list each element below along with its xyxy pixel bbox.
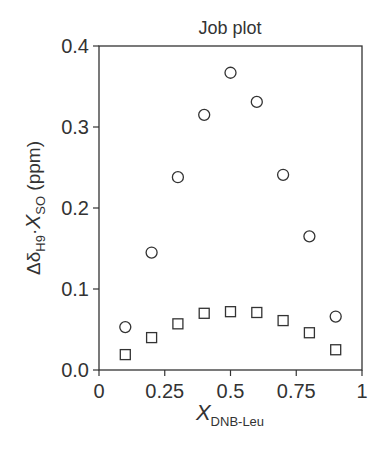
square-marker — [147, 333, 157, 343]
circle-marker — [251, 96, 262, 107]
square-marker — [252, 307, 262, 317]
square-marker — [173, 319, 183, 329]
square-marker — [331, 345, 341, 355]
circle-marker — [278, 169, 289, 180]
x-tick-label: 1 — [356, 380, 367, 402]
x-axis-label: XDNB-Leu — [195, 400, 264, 429]
chart-title: Job plot — [198, 18, 261, 38]
square-marker — [199, 308, 209, 318]
circle-marker — [120, 322, 131, 333]
job-plot-chart: Job plot 0.00.10.20.30.4 00.250.50.751 X… — [0, 0, 383, 451]
y-axis-ticks: 0.00.10.20.30.4 — [61, 35, 99, 381]
x-tick-label: 0.75 — [277, 380, 316, 402]
square-marker — [304, 328, 314, 338]
plot-frame — [99, 46, 362, 370]
y-tick-label: 0.2 — [61, 197, 89, 219]
circle-marker — [199, 109, 210, 120]
y-tick-label: 0.4 — [61, 35, 89, 57]
y-tick-label: 0.1 — [61, 278, 89, 300]
series-squares — [120, 307, 340, 360]
x-tick-label: 0.5 — [217, 380, 245, 402]
x-tick-label: 0.25 — [145, 380, 184, 402]
y-axis-label: ΔδH9·XSO (ppm) — [21, 141, 48, 275]
x-axis-ticks: 00.250.50.751 — [93, 370, 367, 402]
x-tick-label: 0 — [93, 380, 104, 402]
circle-marker — [225, 67, 236, 78]
square-marker — [226, 307, 236, 317]
circle-marker — [172, 172, 183, 183]
circle-marker — [304, 231, 315, 242]
series-circles — [120, 67, 341, 332]
circle-marker — [330, 311, 341, 322]
square-marker — [120, 350, 130, 360]
square-marker — [278, 316, 288, 326]
y-tick-label: 0.0 — [61, 359, 89, 381]
y-tick-label: 0.3 — [61, 116, 89, 138]
circle-marker — [146, 247, 157, 258]
